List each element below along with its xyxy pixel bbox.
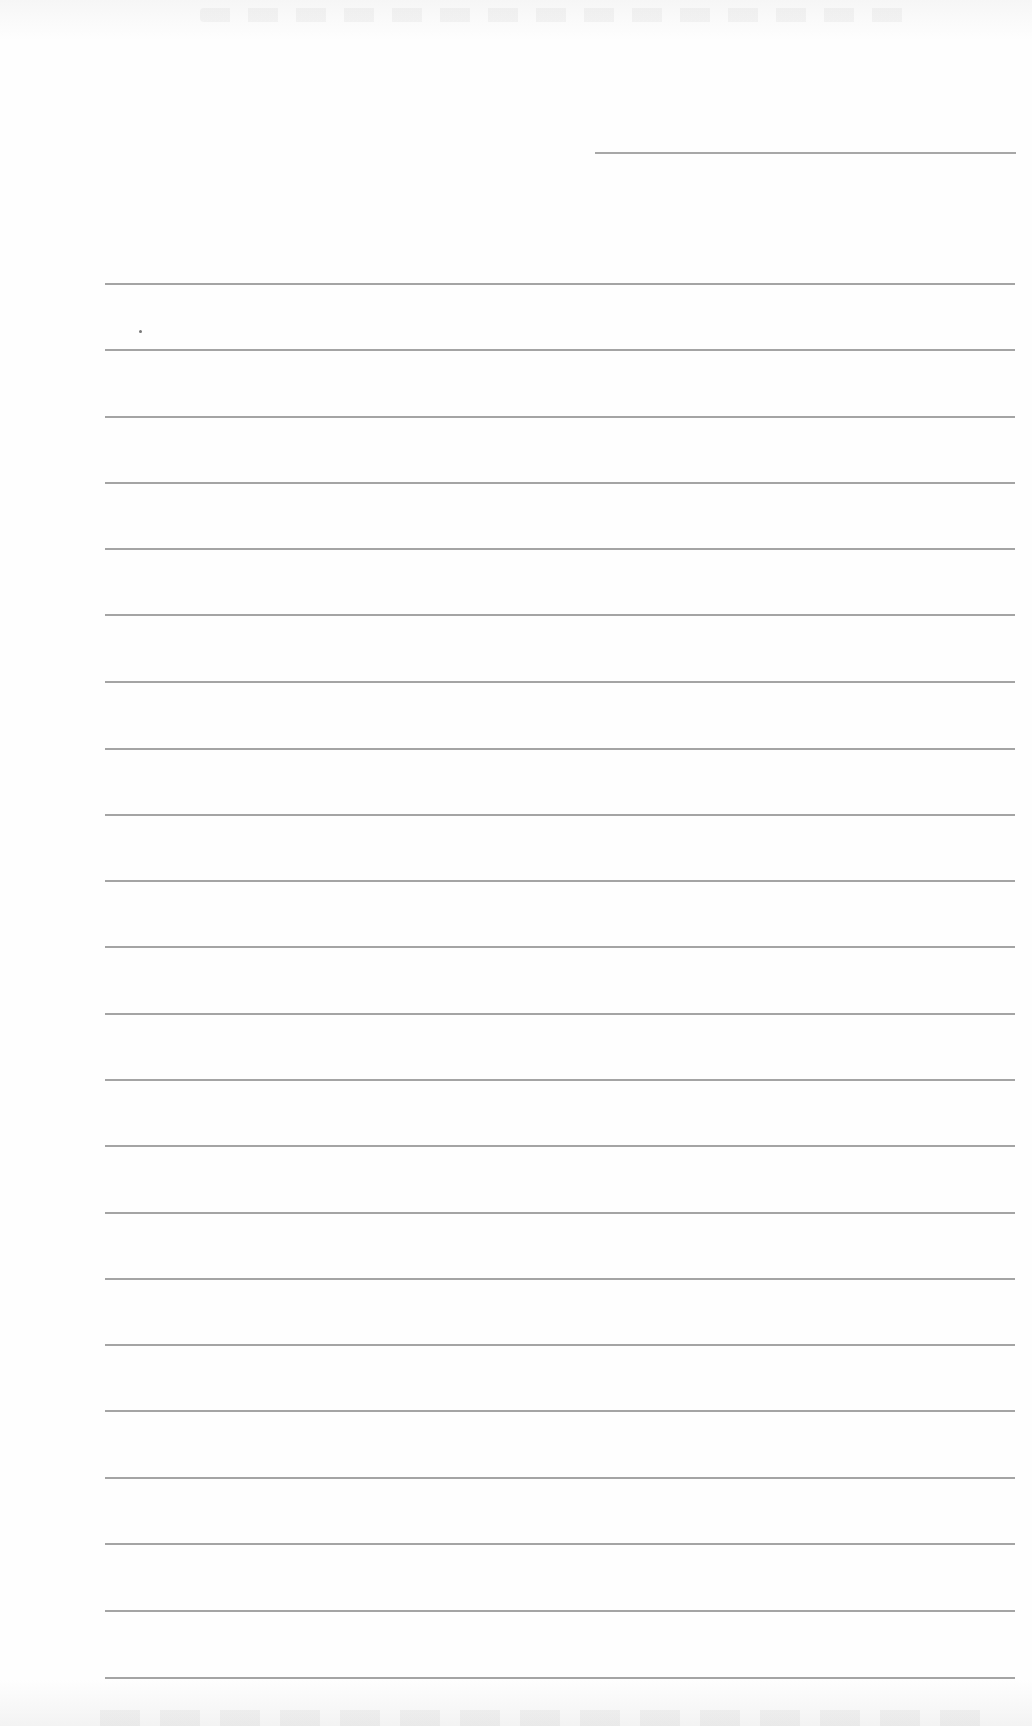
ruled-line <box>105 1610 1015 1612</box>
ruled-line <box>105 283 1015 285</box>
bottom-bleed-through <box>100 1710 1000 1726</box>
ruled-line <box>105 1543 1015 1545</box>
ruled-line <box>105 349 1015 351</box>
ruled-line <box>105 1013 1015 1015</box>
ruled-line <box>105 482 1015 484</box>
ruled-line <box>105 1477 1015 1479</box>
ruled-line <box>105 946 1015 948</box>
ruled-line <box>105 1677 1015 1679</box>
ruled-line <box>105 614 1015 616</box>
margin-dot-mark <box>139 330 142 333</box>
ruled-line <box>105 1079 1015 1081</box>
ruled-line <box>105 681 1015 683</box>
ruled-line <box>105 1212 1015 1214</box>
ruled-line <box>105 880 1015 882</box>
ruled-line <box>105 1410 1015 1412</box>
top-bleed-through <box>200 8 920 22</box>
ruled-line <box>105 416 1015 418</box>
header-write-line <box>595 152 1016 154</box>
ruled-line <box>105 548 1015 550</box>
ruled-line <box>105 1145 1015 1147</box>
ruled-line <box>105 1278 1015 1280</box>
ruled-line <box>105 1344 1015 1346</box>
ruled-line <box>105 748 1015 750</box>
lined-paper-page <box>0 0 1032 1726</box>
ruled-line <box>105 814 1015 816</box>
